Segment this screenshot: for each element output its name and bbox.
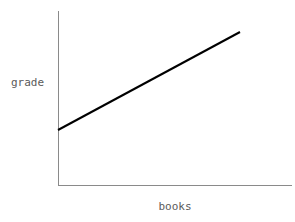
- chart-container: grade books: [0, 0, 295, 222]
- y-axis-label: grade: [11, 76, 44, 89]
- trend-line: [58, 32, 240, 130]
- x-axis-label: books: [58, 200, 292, 213]
- plot-area: [0, 0, 295, 222]
